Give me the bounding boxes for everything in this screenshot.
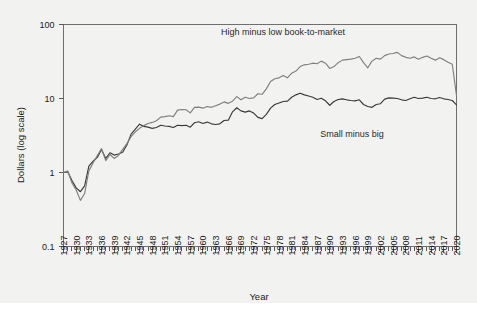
x-tick-label: 1996 — [351, 235, 361, 255]
hml-label: High minus low book-to-market — [221, 27, 346, 37]
x-tick-label: 1999 — [363, 235, 373, 255]
x-tick-label: 2008 — [401, 235, 411, 255]
data-series-group — [64, 52, 457, 200]
x-tick-label: 2011 — [414, 236, 424, 255]
x-tick-label: 1957 — [186, 235, 196, 255]
y-tick-label: 10 — [44, 94, 54, 104]
x-tick-label: 1963 — [211, 235, 221, 255]
x-tick-label: 1987 — [313, 235, 323, 255]
x-tick-label: 1969 — [236, 235, 246, 255]
x-tick-label: 1981 — [287, 235, 297, 255]
x-axis-title: Year — [249, 291, 268, 302]
y-tick-label: 100 — [39, 20, 54, 30]
y-tick-label: 1 — [49, 168, 54, 178]
x-tick-label: 1966 — [224, 235, 234, 255]
series-line-high-minus-low-book-to-market — [64, 52, 457, 200]
y-tick-label: 0.1 — [42, 242, 55, 252]
x-tick-label: 1936 — [97, 235, 107, 255]
smb-label: Small minus big — [320, 129, 384, 139]
x-tick-label: 1978 — [275, 235, 285, 255]
x-tick-label: 1954 — [173, 235, 183, 255]
x-tick-label: 1993 — [338, 235, 348, 255]
x-tick-label: 1972 — [249, 235, 259, 255]
x-tick-label: 2002 — [376, 235, 386, 255]
x-tick-label: 1939 — [110, 235, 120, 255]
x-tick-label: 1960 — [198, 235, 208, 255]
line-chart: 1927193019331936193919421945194819511954… — [0, 0, 477, 312]
x-tick-label: 1948 — [148, 235, 158, 255]
y-axis-tick-labels: 1001010.1 — [39, 20, 54, 252]
x-tick-label: 2020 — [452, 235, 462, 255]
x-tick-label: 1930 — [72, 235, 82, 255]
x-tick-label: 1933 — [84, 235, 94, 255]
x-tick-label: 1951 — [160, 235, 170, 255]
x-axis-tick-labels: 1927193019331936193919421945194819511954… — [59, 235, 462, 255]
plot-border — [64, 25, 457, 247]
y-axis-ticks — [59, 25, 64, 247]
x-tick-label: 1945 — [135, 235, 145, 255]
x-tick-label: 1927 — [59, 235, 69, 255]
series-annotations: High minus low book-to-marketSmall minus… — [221, 27, 384, 139]
x-tick-label: 2017 — [439, 235, 449, 255]
plot-frame — [64, 25, 457, 247]
chart-figure: 1927193019331936193919421945194819511954… — [0, 0, 477, 312]
x-tick-label: 1942 — [122, 235, 132, 255]
x-tick-label: 2014 — [427, 235, 437, 255]
x-tick-label: 2005 — [389, 235, 399, 255]
x-tick-label: 1990 — [325, 235, 335, 255]
series-line-small-minus-big — [64, 93, 457, 192]
y-axis-title: Dollars (log scale) — [15, 107, 26, 183]
x-tick-label: 1984 — [300, 235, 310, 255]
x-tick-label: 1975 — [262, 235, 272, 255]
